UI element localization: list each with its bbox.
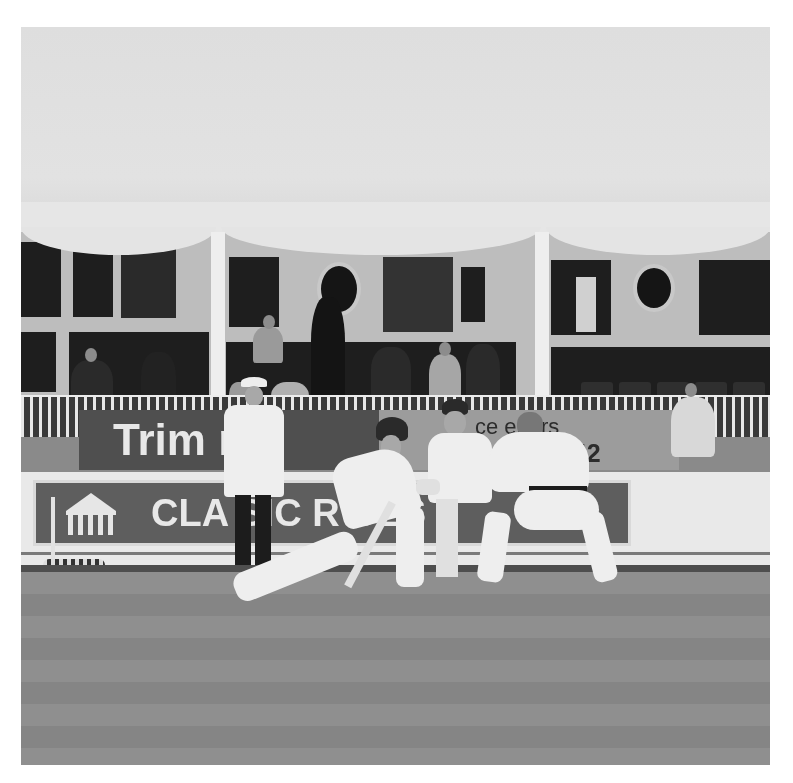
pavilion-pillar bbox=[535, 232, 549, 412]
batsman bbox=[216, 417, 456, 587]
mullion bbox=[576, 277, 596, 332]
cricket-photo: Trim me ce eriors 4242 CLA SIC R SES bbox=[21, 27, 770, 765]
spectator-head bbox=[439, 342, 451, 356]
pavilion-window bbox=[699, 260, 770, 335]
spectator-standing bbox=[311, 297, 345, 407]
umpire-face bbox=[245, 386, 263, 406]
spectator-head bbox=[85, 348, 97, 362]
pavilion-window bbox=[21, 242, 61, 317]
cricket-field bbox=[21, 572, 770, 765]
marquee-tent-logo-icon bbox=[56, 491, 126, 537]
spectator-railing bbox=[671, 397, 715, 457]
fielder-back bbox=[489, 432, 589, 492]
fielder-leg bbox=[476, 511, 511, 584]
spectator-head bbox=[685, 383, 697, 397]
batting-gloves bbox=[416, 479, 440, 495]
fielder-leg bbox=[579, 510, 619, 584]
spectator bbox=[253, 327, 283, 363]
close-fielder bbox=[469, 412, 629, 587]
round-window bbox=[633, 264, 675, 312]
spectator bbox=[371, 347, 411, 402]
pavilion-window bbox=[383, 257, 453, 332]
spectator-head bbox=[263, 315, 275, 329]
pavilion-window bbox=[21, 332, 56, 392]
pavilion bbox=[21, 232, 770, 422]
batsman-back-leg-pad bbox=[396, 507, 424, 587]
pavilion-window bbox=[461, 267, 485, 322]
